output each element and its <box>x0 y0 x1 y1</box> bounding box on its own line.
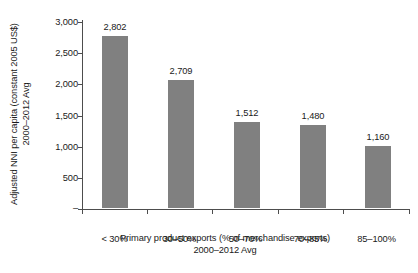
y-tick-label: – <box>34 203 78 213</box>
y-tick-label: 500 <box>34 173 78 183</box>
y-tick-label: 2,500 <box>34 48 78 58</box>
y-tick-mark <box>78 22 82 23</box>
x-tick-mark <box>212 210 213 214</box>
y-tick-label: 2,000 <box>34 79 78 89</box>
bar-value-label-1: 2,709 <box>156 66 206 77</box>
x-tick-mark <box>343 210 344 214</box>
x-axis-title-line1: Primary product exports (% of merchandis… <box>120 233 330 243</box>
bar-value-label-3: 1,480 <box>288 111 338 122</box>
x-tick-mark <box>278 210 279 214</box>
y-tick-label: 1,000 <box>34 142 78 152</box>
plot-area: 2,802 2,709 1,512 1,480 1,160 < 30% 30–5… <box>82 20 410 209</box>
x-axis-title-line2: 2000–2012 Avg <box>40 244 410 256</box>
y-axis-title-line2: 2000–2012 Avg <box>20 23 32 205</box>
bar-category-2 <box>234 122 260 208</box>
bar-category-0 <box>102 36 128 208</box>
x-axis-title: Primary product exports (% of merchandis… <box>40 232 410 256</box>
y-tick-mark <box>78 116 82 117</box>
y-tick-mark <box>78 178 82 179</box>
x-tick-mark <box>82 210 83 214</box>
y-tick-mark <box>78 147 82 148</box>
y-tick-label: 3,000 <box>34 17 78 27</box>
x-axis-line <box>82 209 410 210</box>
bar-category-4 <box>365 146 391 208</box>
bar-value-label-0: 2,802 <box>90 22 140 33</box>
bar-category-3 <box>300 125 326 208</box>
bar-value-label-4: 1,160 <box>353 132 403 143</box>
y-tick-label: 1,500 <box>34 111 78 121</box>
y-axis-line <box>82 20 83 210</box>
bar-chart: Adjusted NNI per capita (constant 2005 U… <box>0 0 418 273</box>
y-axis-title-line1: Adjusted NNI per capita (constant 2005 U… <box>8 23 20 205</box>
x-tick-mark <box>147 210 148 214</box>
y-tick-mark <box>78 84 82 85</box>
y-tick-mark <box>78 53 82 54</box>
bar-category-1 <box>168 80 194 208</box>
x-tick-mark <box>409 210 410 214</box>
bar-value-label-2: 1,512 <box>222 108 272 119</box>
